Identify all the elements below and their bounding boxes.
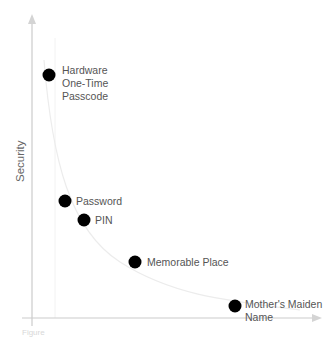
figure-caption: Figure	[22, 328, 45, 337]
data-point-pin	[78, 214, 91, 227]
y-axis-label: Security	[14, 142, 34, 182]
security-chart	[0, 0, 336, 338]
data-point-password	[59, 195, 72, 208]
y-axis-arrow-icon	[28, 14, 36, 24]
label-pin: PIN	[95, 214, 113, 227]
label-hardware-otp: Hardware One-Time Passcode	[62, 64, 108, 103]
data-point-hardware-otp	[43, 69, 56, 82]
data-point-memorable-place	[129, 256, 142, 269]
label-password: Password	[76, 195, 122, 208]
label-memorable-place: Memorable Place	[147, 256, 229, 269]
data-point-mothers-maiden-name	[229, 300, 242, 313]
label-mothers-maiden-name: Mother's Maiden Name	[245, 298, 322, 324]
